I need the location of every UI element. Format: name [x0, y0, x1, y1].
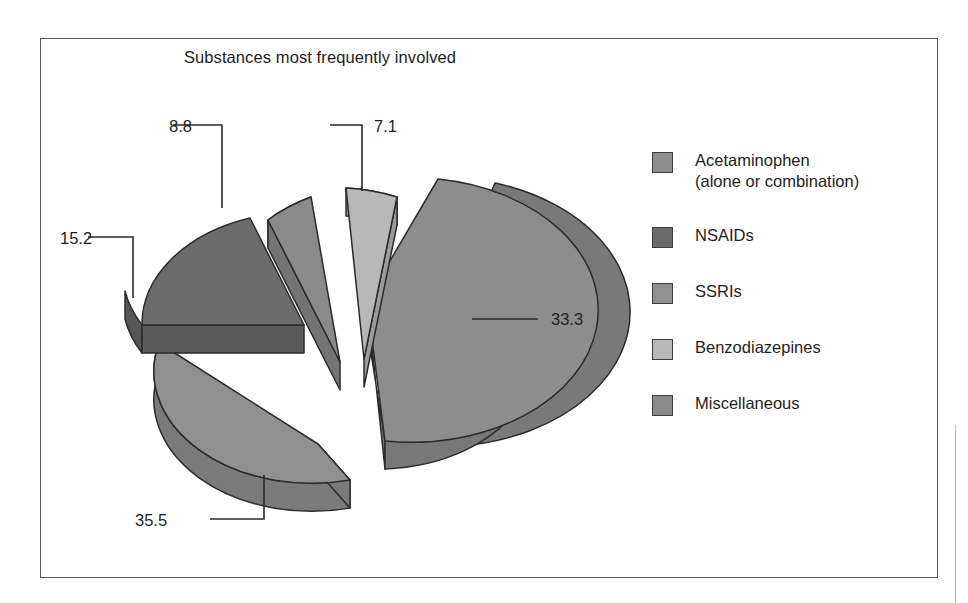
pie-value-label-miscellaneous: 8.8 [169, 117, 192, 136]
figure-root: Substances most frequently involved .sli… [0, 0, 968, 603]
legend-label-nsaids: NSAIDs [695, 225, 754, 246]
leader-line-miscellaneous [173, 125, 222, 208]
legend-swatch-icon-ssris [652, 283, 673, 304]
legend-swatch-icon-acetaminophen [652, 152, 673, 173]
legend-label-benzodiazepines: Benzodiazepines [695, 337, 821, 358]
legend-item-nsaids: NSAIDs [652, 225, 912, 248]
legend-label-ssris: SSRIs [695, 281, 742, 302]
legend-label-acetaminophen: Acetaminophen (alone or combination) [695, 150, 859, 192]
pie-value-label-ssris: 35.5 [135, 511, 167, 530]
pie-value-label-benzodiazepines: 7.1 [374, 117, 397, 136]
legend-swatch-icon-nsaids [652, 227, 673, 248]
legend-item-benzodiazepines: Benzodiazepines [652, 337, 912, 360]
leader-line-benzodiazepines [330, 125, 362, 191]
legend-item-miscellaneous: Miscellaneous [652, 393, 912, 416]
pie-value-label-acetaminophen: 33.3 [551, 310, 583, 329]
pie-value-label-nsaids: 15.2 [60, 229, 92, 248]
legend-item-ssris: SSRIs [652, 281, 912, 304]
legend-label-miscellaneous: Miscellaneous [695, 393, 800, 414]
pie-chart-graphic: .slice-top { stroke:#2b2b2b; stroke-widt… [40, 38, 640, 558]
legend-item-acetaminophen: Acetaminophen (alone or combination) [652, 150, 912, 192]
legend-swatch-icon-miscellaneous [652, 395, 673, 416]
pie-slice-ssris [154, 343, 350, 511]
leader-line-nsaids [88, 237, 133, 298]
chart-legend: Acetaminophen (alone or combination) NSA… [652, 150, 912, 449]
pie-slice-acetaminophen [367, 179, 630, 469]
page-gutter-rule [955, 425, 956, 603]
legend-swatch-icon-benzodiazepines [652, 339, 673, 360]
